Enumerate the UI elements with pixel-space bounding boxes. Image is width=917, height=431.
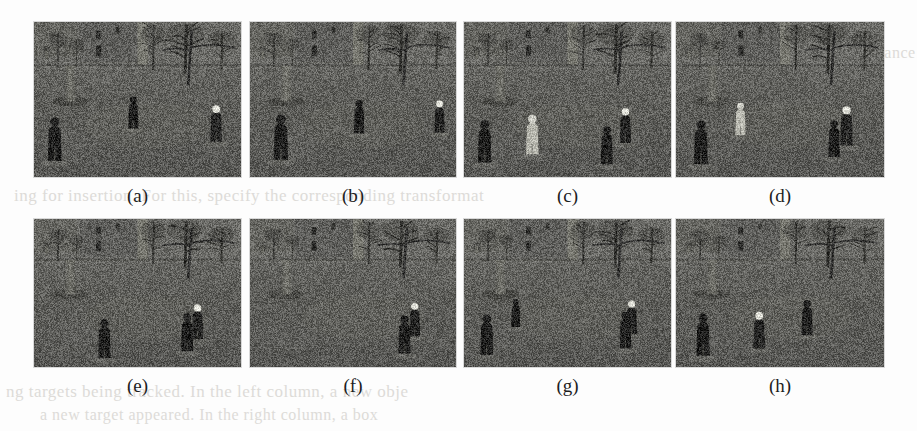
surveillance-frame-c	[464, 22, 671, 177]
panel-image-g	[464, 219, 671, 367]
panel-image-f	[250, 219, 456, 367]
surveillance-frame-e	[34, 219, 241, 367]
panel-image-a	[34, 22, 241, 177]
surveillance-frame-a	[34, 22, 241, 177]
figure-panel-grid: ing for insertion. For this, specify the…	[0, 0, 917, 431]
surveillance-frame-h	[676, 219, 884, 367]
panel-d: (d)	[676, 22, 884, 209]
panel-e: (e)	[34, 219, 241, 399]
panel-a: (a)	[34, 22, 241, 209]
surveillance-frame-f	[250, 219, 456, 367]
panel-caption-e: (e)	[34, 376, 241, 395]
panel-h: (h)	[676, 219, 884, 399]
panel-c: (c)	[464, 22, 671, 209]
panel-caption-h: (h)	[676, 376, 884, 395]
panel-caption-f: (f)	[250, 376, 456, 395]
surveillance-frame-g	[464, 219, 671, 367]
surveillance-frame-d	[676, 22, 884, 177]
panel-caption-b: (b)	[250, 186, 456, 205]
panel-b: (b)	[250, 22, 456, 209]
panel-image-b	[250, 22, 456, 177]
panel-caption-g: (g)	[464, 376, 671, 395]
panel-caption-c: (c)	[464, 186, 671, 205]
panel-image-h	[676, 219, 884, 367]
panel-caption-a: (a)	[34, 186, 241, 205]
panel-image-d	[676, 22, 884, 177]
panel-image-e	[34, 219, 241, 367]
bleedthrough-text: a new target appeared. In the right colu…	[40, 406, 378, 424]
panel-image-c	[464, 22, 671, 177]
panel-caption-d: (d)	[676, 186, 884, 205]
panel-f: (f)	[250, 219, 456, 399]
panel-g: (g)	[464, 219, 671, 399]
surveillance-frame-b	[250, 22, 456, 177]
